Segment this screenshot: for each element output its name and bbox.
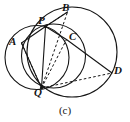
chord-p-c xyxy=(46,27,67,40)
chord-c-d xyxy=(67,40,113,74)
solid-chords-group xyxy=(22,12,113,88)
point-label-b: B xyxy=(62,2,69,13)
dashed-chords-group xyxy=(22,12,113,88)
dashed-chord-q-c xyxy=(42,40,67,89)
point-label-q: Q xyxy=(34,87,42,98)
figure-caption: (c) xyxy=(0,105,130,116)
geometry-figure: A B C D P Q (c) xyxy=(0,0,130,122)
point-label-p: P xyxy=(38,15,45,26)
dashed-chord-q-b xyxy=(42,12,68,88)
point-label-c: C xyxy=(69,31,76,42)
point-label-a: A xyxy=(9,36,16,47)
point-label-d: D xyxy=(114,65,122,76)
